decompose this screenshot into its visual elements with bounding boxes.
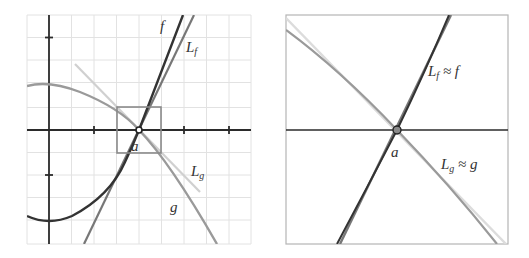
- figure: f Lf a Lg g Lf ≈ f a Lg ≈ g: [0, 0, 529, 258]
- zoomed-point-a: [393, 126, 401, 134]
- left-panel: f Lf a Lg g: [27, 15, 251, 244]
- label-a-right: a: [391, 144, 399, 160]
- label-f: f: [160, 18, 166, 34]
- label-Lg-approx-g: Lg ≈ g: [440, 156, 478, 174]
- label-L-g: Lg: [190, 163, 204, 181]
- label-Lf-approx-f: Lf ≈ f: [427, 63, 461, 81]
- label-g: g: [170, 199, 178, 215]
- point-a: [136, 127, 142, 133]
- label-a-left: a: [131, 138, 139, 154]
- curve-f: [27, 15, 183, 221]
- label-L-f: Lf: [185, 39, 198, 57]
- right-panel: Lf ≈ f a Lg ≈ g: [286, 15, 508, 244]
